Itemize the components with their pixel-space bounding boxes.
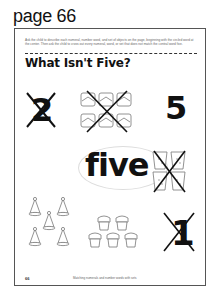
numeral-value: 5: [165, 89, 187, 127]
page-label: page 66: [13, 6, 76, 27]
center-word: five: [85, 146, 148, 184]
item-numeral-1: 1: [161, 209, 197, 253]
worksheet: Ask the child to describe each numeral, …: [14, 28, 206, 286]
instructions-text: Ask the child to describe each numeral, …: [25, 38, 197, 46]
item-cupcake-set: [87, 215, 143, 251]
footer-page-number: 66: [25, 276, 29, 281]
item-cake-set: [79, 89, 133, 133]
footer-caption: Matching numerals and number words with …: [73, 276, 137, 280]
cross-out-icon: [161, 209, 197, 253]
cross-out-icon: [25, 89, 57, 129]
divider: [25, 53, 197, 55]
item-numeral-2: 2: [25, 89, 57, 129]
cups-icon: [151, 149, 187, 193]
worksheet-title: What Isn't Five?: [25, 56, 131, 70]
cupcakes-icon: [87, 215, 143, 251]
item-cup-set: [151, 149, 187, 193]
cake-slices-icon: [79, 89, 133, 133]
item-numeral-5: 5: [165, 89, 195, 129]
party-hats-icon: [27, 197, 77, 249]
item-party-hat-set: [27, 197, 77, 249]
